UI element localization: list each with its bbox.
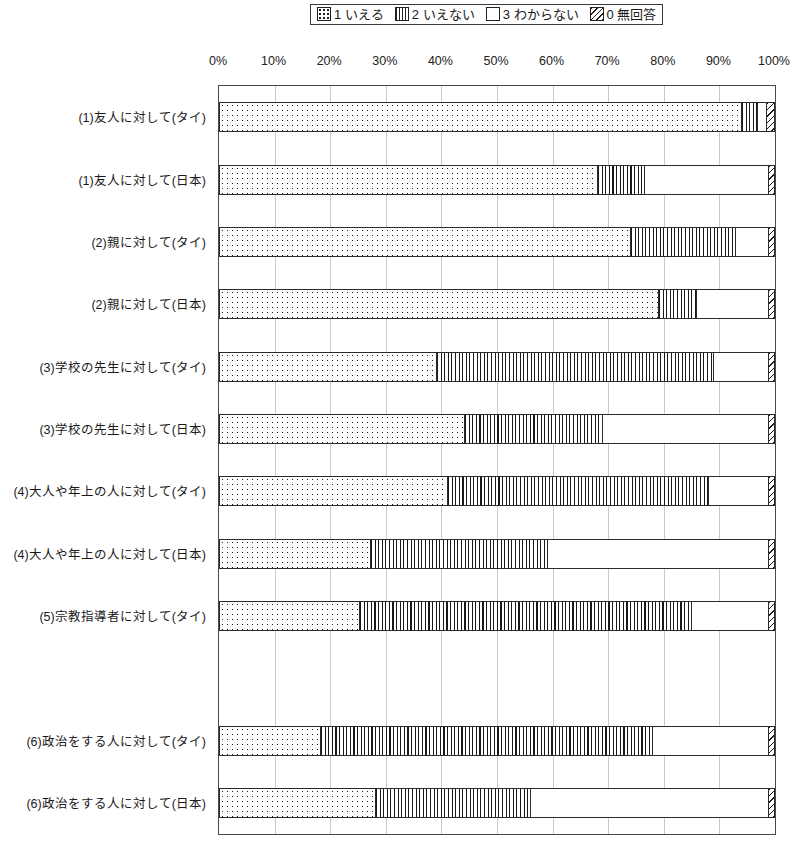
- bar-rows: [219, 86, 775, 834]
- bar-row: [219, 414, 775, 444]
- stacked-bar: [219, 476, 775, 506]
- category-label: (5)宗教指導者に対して(タイ): [39, 605, 206, 624]
- category-label: (3)学校の先生に対して(タイ): [39, 356, 206, 375]
- x-tick-0: 0%: [209, 54, 227, 68]
- bar-segment-diagonal-hatch: [766, 103, 774, 131]
- bar-row: [219, 726, 775, 756]
- bar-segment-vertical-lines: [447, 477, 707, 505]
- x-axis-tick-labels: 0%10%20%30%40%50%60%70%80%90%100%: [218, 54, 774, 72]
- x-tick-100: 100%: [758, 54, 790, 68]
- bar-segment-diagonal-hatch: [768, 353, 774, 381]
- category-label: (6)政治をする人に対して(タイ): [26, 730, 206, 749]
- bar-segment-dots: [220, 353, 436, 381]
- bar-segment-white: [602, 415, 768, 443]
- bar-segment-vertical-lines: [741, 103, 758, 131]
- bar-row: [219, 476, 775, 506]
- bar-segment-dots: [220, 602, 359, 630]
- x-tick-20: 20%: [317, 54, 342, 68]
- bar-segment-vertical-lines: [375, 789, 530, 817]
- x-tick-70: 70%: [595, 54, 620, 68]
- stacked-bar: [219, 601, 775, 631]
- bar-row: [219, 788, 775, 818]
- bar-segment-dots: [220, 789, 375, 817]
- stacked-bar: [219, 726, 775, 756]
- bar-row: [219, 601, 775, 631]
- legend-label-0: 0 無回答: [607, 8, 657, 21]
- bar-segment-white: [652, 727, 768, 755]
- bar-segment-white: [691, 602, 769, 630]
- bar-segment-white: [530, 789, 768, 817]
- bar-segment-vertical-lines: [658, 290, 697, 318]
- stacked-bar: [219, 102, 775, 132]
- x-tick-10: 10%: [261, 54, 286, 68]
- category-label: (4)大人や年上の人に対して(タイ): [13, 481, 206, 500]
- bar-row: [219, 165, 775, 195]
- bar-segment-white: [713, 353, 768, 381]
- legend-label-1: 1 いえる: [334, 8, 384, 21]
- bar-segment-white: [696, 290, 768, 318]
- legend-swatch-dots-icon: [317, 7, 331, 21]
- bar-segment-vertical-lines: [464, 415, 603, 443]
- bar-segment-vertical-lines: [320, 727, 652, 755]
- x-tick-90: 90%: [706, 54, 731, 68]
- bar-segment-white: [757, 103, 765, 131]
- bar-segment-diagonal-hatch: [768, 727, 774, 755]
- bar-segment-diagonal-hatch: [768, 540, 774, 568]
- legend-item-0: 0 無回答: [590, 7, 657, 21]
- category-label: (4)大人や年上の人に対して(日本): [13, 543, 206, 562]
- category-label: (1)友人に対して(日本): [78, 169, 206, 188]
- bar-segment-dots: [220, 166, 597, 194]
- x-tick-30: 30%: [372, 54, 397, 68]
- bar-segment-vertical-lines: [436, 353, 713, 381]
- stacked-bar: [219, 414, 775, 444]
- bar-segment-vertical-lines: [630, 228, 735, 256]
- bar-segment-diagonal-hatch: [768, 290, 774, 318]
- y-axis-category-labels: (1)友人に対して(タイ)(1)友人に対して(日本)(2)親に対して(タイ)(2…: [0, 85, 214, 833]
- category-label: (2)親に対して(タイ): [91, 231, 206, 250]
- stacked-bar: [219, 227, 775, 257]
- category-label: (6)政治をする人に対して(日本): [26, 792, 206, 811]
- stacked-bar: [219, 289, 775, 319]
- bar-segment-diagonal-hatch: [768, 415, 774, 443]
- x-tick-40: 40%: [428, 54, 453, 68]
- bar-row: [219, 289, 775, 319]
- bar-segment-vertical-lines: [597, 166, 644, 194]
- category-label: (2)親に対して(日本): [91, 294, 206, 313]
- legend-label-3: 3 わからない: [503, 8, 579, 21]
- bar-segment-diagonal-hatch: [768, 789, 774, 817]
- bar-segment-dots: [220, 415, 464, 443]
- bar-segment-white: [644, 166, 769, 194]
- legend-swatch-white-icon: [486, 7, 500, 21]
- stacked-bar: [219, 788, 775, 818]
- bar-segment-diagonal-hatch: [768, 602, 774, 630]
- bar-row: [219, 102, 775, 132]
- bar-row: [219, 539, 775, 569]
- legend-item-1: 1 いえる: [317, 7, 384, 21]
- bar-segment-white: [547, 540, 769, 568]
- x-tick-50: 50%: [483, 54, 508, 68]
- bar-segment-white: [708, 477, 769, 505]
- bar-segment-dots: [220, 477, 447, 505]
- bar-segment-diagonal-hatch: [768, 166, 774, 194]
- legend-item-2: 2 いえない: [395, 7, 475, 21]
- bar-segment-dots: [220, 540, 370, 568]
- stacked-bar: [219, 352, 775, 382]
- bar-segment-diagonal-hatch: [768, 477, 774, 505]
- bar-segment-diagonal-hatch: [768, 228, 774, 256]
- chart-plot-area: [218, 85, 776, 835]
- chart-legend: 1 いえる 2 いえない 3 わからない 0 無回答: [310, 4, 663, 25]
- bar-segment-dots: [220, 727, 320, 755]
- bar-segment-dots: [220, 103, 741, 131]
- bar-row: [219, 227, 775, 257]
- stacked-bar: [219, 539, 775, 569]
- category-label: (3)学校の先生に対して(日本): [39, 418, 206, 437]
- legend-swatch-vertical-lines-icon: [395, 7, 409, 21]
- legend-item-3: 3 わからない: [486, 7, 579, 21]
- legend-label-2: 2 いえない: [412, 8, 475, 21]
- legend-swatch-hatch-icon: [590, 7, 604, 21]
- bar-segment-dots: [220, 290, 658, 318]
- category-label: (1)友人に対して(タイ): [78, 107, 206, 126]
- bar-segment-vertical-lines: [359, 602, 691, 630]
- bar-row: [219, 352, 775, 382]
- x-tick-60: 60%: [539, 54, 564, 68]
